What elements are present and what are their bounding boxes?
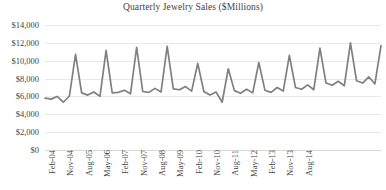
x-axis-tick-label: Feb-10 (195, 150, 204, 174)
x-axis-tick-label: Nov-07 (140, 150, 149, 176)
x-axis-tick-label: Aug-05 (85, 150, 94, 176)
y-axis-tick-label: $0 (31, 146, 40, 155)
y-axis-tick-label: $6,000 (16, 92, 39, 101)
x-axis-tick-label: May-12 (250, 150, 259, 177)
x-axis-tick-label: Aug-11 (231, 150, 240, 176)
x-axis-tick-label: May-09 (176, 150, 185, 177)
y-axis-tick-label: $10,000 (11, 56, 39, 65)
x-axis-tick-label: Nov-04 (66, 150, 75, 176)
x-axis-tick-label: Aug-08 (158, 150, 167, 176)
x-axis-tick-label: Feb-04 (48, 150, 57, 174)
x-axis-tick-label: Aug-14 (305, 150, 314, 176)
x-axis-tick-label: Nov-13 (286, 150, 295, 176)
y-axis-tick-label: $8,000 (16, 74, 39, 83)
series-line-chart (45, 25, 381, 150)
y-axis-tick-label: $4,000 (16, 110, 39, 119)
y-axis-tick-label: $14,000 (11, 21, 39, 30)
x-axis: Feb-04Nov-04Aug-05May-06Feb-07Nov-07Aug-… (45, 150, 381, 190)
chart-container: Quarterly Jewelry Sales ($Millions) $0$2… (0, 0, 386, 190)
series-line-jewelry-sales (45, 43, 381, 102)
x-axis-tick-label: Feb-07 (121, 150, 130, 174)
chart-title: Quarterly Jewelry Sales ($Millions) (0, 2, 386, 12)
plot-area (45, 25, 381, 150)
x-axis-tick-label: Nov-10 (213, 150, 222, 176)
y-axis-tick-label: $2,000 (16, 128, 39, 137)
x-axis-tick-label: May-06 (103, 150, 112, 177)
y-axis: $0$2,000$4,000$6,000$8,000$10,000$12,000… (0, 25, 42, 150)
x-axis-tick-label: Feb-13 (268, 150, 277, 174)
y-axis-tick-label: $12,000 (11, 39, 39, 48)
